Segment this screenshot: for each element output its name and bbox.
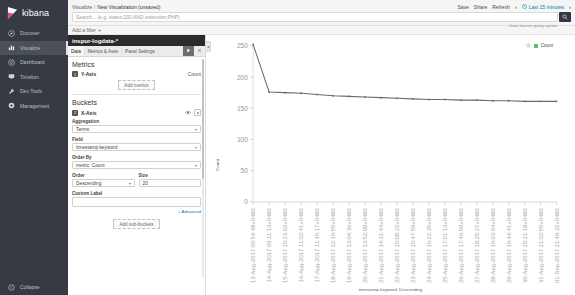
sidebar-item-timelion[interactable]: Timelion — [0, 70, 68, 85]
order-by-value: metric: Count — [76, 163, 105, 168]
close-icon — [197, 48, 202, 54]
svg-text:50: 50 — [241, 167, 249, 174]
lucene-hint: Uses lucene query syntax — [509, 23, 557, 28]
discard-changes-button[interactable] — [194, 46, 205, 56]
sidebar-nav: Discover Visualize Dashboard Timelion — [0, 26, 68, 113]
aggregation-select[interactable]: Terms ▾ — [72, 125, 201, 133]
advanced-toggle[interactable]: + Advanced — [72, 209, 201, 214]
chart-legend: Count — [526, 43, 553, 48]
sidebar-item-dev-tools[interactable]: Dev Tools — [0, 84, 68, 99]
metric-agg-row[interactable]: 1 Y-Axis Count — [72, 71, 201, 77]
tab-metrics-axes[interactable]: Metrics & Axes — [85, 46, 122, 56]
order-col: Order Descending ▾ — [72, 173, 135, 187]
topbar-row: Visualize / New Visualization (unsaved) … — [72, 2, 571, 11]
sidebar-item-label: Dev Tools — [20, 88, 42, 94]
chevron-down-icon: ▾ — [195, 163, 197, 168]
clock-icon — [522, 4, 527, 9]
size-input[interactable]: 20 — [139, 179, 202, 187]
compass-icon — [8, 30, 15, 37]
chevron-down-icon: ▾ — [195, 145, 197, 150]
share-button[interactable]: Share — [474, 4, 487, 10]
time-range-label: Last 15 minutes — [529, 4, 564, 10]
breadcrumb-current: New Visualization (unsaved) — [97, 4, 160, 10]
svg-text:200: 200 — [237, 73, 248, 80]
sidebar-spacer — [0, 113, 68, 279]
order-size-row: Order Descending ▾ Size 20 — [72, 173, 201, 187]
eye-icon[interactable] — [185, 110, 191, 116]
editor-collapse-button[interactable]: ◂ — [206, 41, 211, 52]
save-button[interactable]: Save — [457, 4, 468, 10]
editor-footer: Add sub-buckets — [72, 217, 201, 236]
sidebar-item-management[interactable]: Management — [0, 99, 68, 114]
tabs-spacer — [159, 46, 183, 56]
time-prev-button[interactable]: ‹ — [515, 4, 517, 10]
custom-label-label: Custom Label — [72, 191, 201, 196]
order-by-select[interactable]: metric: Count ▾ — [72, 161, 201, 169]
search-button[interactable] — [559, 12, 571, 22]
svg-text:0: 0 — [244, 198, 248, 205]
editor-body: Metrics 1 Y-Axis Count Add metrics Bucke… — [68, 57, 205, 295]
section-divider — [72, 94, 201, 95]
svg-text:250: 250 — [237, 42, 248, 49]
editor-scrollbar[interactable] — [202, 59, 204, 278]
order-value: Descending — [76, 181, 101, 186]
svg-text:20-Aug-2017 13:52:08+0480: 20-Aug-2017 13:52:08+0480 — [362, 208, 368, 283]
sidebar-item-discover[interactable]: Discover — [0, 26, 68, 41]
apply-changes-button[interactable] — [183, 46, 194, 56]
add-sub-buckets-button[interactable]: Add sub-buckets — [113, 219, 159, 229]
order-select[interactable]: Descending ▾ — [72, 179, 135, 187]
bucket-agg-controls — [185, 109, 201, 116]
field-select[interactable]: timestamp.keyword ▾ — [72, 143, 201, 151]
tab-panel-settings[interactable]: Panel Settings — [122, 46, 159, 56]
svg-text:23-Aug-2017 15:47:59+0480: 23-Aug-2017 15:47:59+0480 — [410, 208, 416, 283]
sidebar-item-label: Timelion — [20, 74, 39, 80]
add-filter-plus-icon[interactable]: + — [98, 27, 101, 33]
sidebar-collapse-button[interactable]: Collapse — [0, 279, 68, 295]
drag-handle-icon[interactable]: 2 — [72, 110, 78, 116]
add-metrics-button[interactable]: Add metrics — [118, 80, 154, 90]
svg-text:17-Aug-2017 11:45:17+0480: 17-Aug-2017 11:45:17+0480 — [314, 208, 320, 282]
kibana-app: kibana Discover Visualize Dashboard — [0, 0, 575, 295]
filter-bar: Add a filter + — [68, 26, 575, 35]
chevron-down-icon: ▾ — [129, 181, 131, 186]
breadcrumb-root[interactable]: Visualize — [72, 4, 92, 10]
svg-text:29-Aug-2017 19:44:41+0480: 29-Aug-2017 19:44:41+0480 — [506, 208, 512, 283]
tab-data[interactable]: Data — [68, 46, 85, 56]
svg-text:24-Aug-2017 16:22:35+0480: 24-Aug-2017 16:22:35+0480 — [426, 208, 432, 283]
svg-text:15-Aug-2017 10:23:02+0480: 15-Aug-2017 10:23:02+0480 — [282, 208, 288, 283]
bucket-agg-row[interactable]: 2 X-Axis — [72, 109, 201, 116]
collapse-label: Collapse — [20, 284, 39, 290]
sidebar-item-label: Visualize — [20, 45, 40, 51]
refresh-button[interactable]: Refresh — [492, 4, 510, 10]
drag-handle-icon[interactable]: 1 — [72, 71, 78, 77]
breadcrumb-separator: / — [94, 4, 95, 10]
bar-chart-icon — [8, 44, 15, 51]
index-pattern-title: inspur-logdata-* — [68, 35, 205, 46]
search-input[interactable]: Search... (e.g. status:200 AND extension… — [72, 12, 558, 22]
editor-tabs: Data Metrics & Axes Panel Settings — [68, 46, 205, 57]
chevron-down-icon: ▾ — [195, 127, 197, 132]
add-filter-button[interactable]: Add a filter — [72, 27, 96, 33]
sidebar-item-dashboard[interactable]: Dashboard — [0, 55, 68, 70]
chart-svg: 05010015020025013-Aug-2017 09:54:48+0480… — [206, 35, 575, 295]
sidebar-item-visualize[interactable]: Visualize — [0, 41, 68, 56]
sidebar-item-label: Management — [20, 103, 49, 109]
bucket-agg-name: X-Axis — [81, 110, 97, 116]
svg-text:01-Sep-2017 21:40:32+0480: 01-Sep-2017 21:40:32+0480 — [554, 208, 560, 283]
workspace: inspur-logdata-* Data Metrics & Axes Pan… — [68, 35, 575, 295]
legend-label[interactable]: Count — [541, 43, 553, 48]
main-area: Visualize / New Visualization (unsaved) … — [68, 0, 575, 295]
custom-label-input[interactable] — [72, 197, 201, 207]
gear-icon[interactable] — [526, 43, 531, 48]
size-label: Size — [139, 173, 202, 178]
order-by-label: Order By — [72, 155, 201, 160]
svg-text:16-Aug-2017 11:02:41+0480: 16-Aug-2017 11:02:41+0480 — [298, 208, 304, 282]
y-axis-title: Count — [215, 159, 220, 171]
chart-plot[interactable]: 05010015020025013-Aug-2017 09:54:48+0480… — [206, 35, 575, 295]
svg-text:26-Aug-2017 17:46:50+0480: 26-Aug-2017 17:46:50+0480 — [458, 208, 464, 283]
remove-bucket-button[interactable] — [194, 109, 201, 116]
sidebar-item-label: Discover — [20, 30, 39, 36]
time-range-picker[interactable]: Last 15 minutes — [522, 4, 564, 10]
size-col: Size 20 — [139, 173, 202, 187]
time-next-button[interactable]: › — [569, 4, 571, 10]
